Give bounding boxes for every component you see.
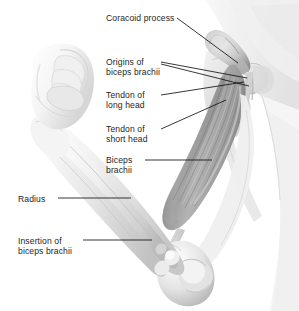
label-tendon-long-head: Tendon oflong head [106, 90, 182, 111]
label-insertion-biceps-brachii: Insertion ofbiceps brachii [18, 236, 102, 257]
clenched-fist [31, 44, 94, 130]
label-long-head-line1: Tendon of [106, 90, 145, 100]
label-long-head-line2: long head [106, 100, 145, 110]
label-tendon-short-head: Tendon ofshort head [106, 124, 182, 145]
label-short-head-line2: short head [106, 134, 148, 144]
label-origins-biceps-brachii: Origins ofbiceps brachii [106, 57, 182, 78]
label-coracoid-process: Coracoid process [106, 13, 174, 23]
label-origins-line2: biceps brachii [106, 67, 160, 77]
label-biceps-line1: Biceps [106, 155, 132, 165]
label-biceps-brachii: Bicepsbrachii [106, 155, 182, 176]
label-origins-line1: Origins of [106, 57, 144, 67]
label-insertion-line2: biceps brachii [18, 246, 72, 256]
label-insertion-line1: Insertion of [18, 236, 62, 246]
anatomy-figure: Coracoid process Origins ofbiceps brachi… [0, 0, 299, 311]
label-radius: Radius [18, 194, 45, 204]
label-short-head-line1: Tendon of [106, 124, 145, 134]
label-biceps-line2: brachii [106, 165, 132, 175]
